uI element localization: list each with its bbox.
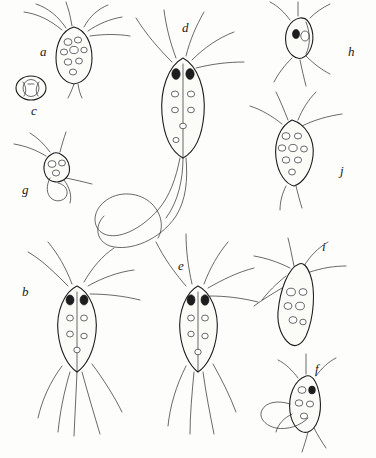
figure-label-e: e (178, 259, 184, 272)
figure-label-i: i (322, 240, 326, 253)
figure-label-h: h (348, 45, 355, 58)
figure-h-organism (270, 2, 330, 86)
figure-label-a: a (40, 45, 47, 58)
figure-label-f: f (315, 362, 319, 375)
figure-label-d: d (182, 21, 189, 34)
figure-c-organism (16, 76, 46, 100)
figure-f-organism (261, 354, 336, 452)
figure-i-organism (254, 238, 346, 346)
figure-label-g: g (22, 183, 29, 196)
figure-b-organism (28, 242, 140, 436)
figure-label-c: c (31, 104, 37, 117)
figure-j-organism (250, 92, 342, 210)
figure-d-organism (95, 10, 244, 248)
illustration-plate: a c g b d e h j i f (0, 0, 376, 458)
figure-e-organism (156, 234, 258, 434)
figure-label-b: b (22, 285, 29, 298)
plate-artwork (0, 0, 376, 458)
figure-label-j: j (340, 164, 344, 177)
